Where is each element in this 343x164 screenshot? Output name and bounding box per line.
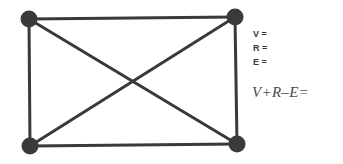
edge-left	[29, 19, 30, 146]
graph-diagram	[0, 0, 343, 164]
vertex-top-right	[227, 9, 244, 26]
edge-bottom	[30, 144, 237, 146]
edges-label: E =	[253, 55, 267, 69]
euler-labels: V = R = E =	[253, 27, 267, 69]
vertex-bottom-right	[229, 136, 246, 153]
vertex-top-left	[21, 11, 38, 28]
edge-right	[235, 17, 237, 144]
edge-top	[29, 17, 235, 19]
vertex-bottom-left	[22, 138, 39, 155]
euler-formula: V+R–E=	[252, 84, 309, 101]
vertices-label: V =	[253, 27, 267, 41]
regions-label: R =	[253, 41, 267, 55]
